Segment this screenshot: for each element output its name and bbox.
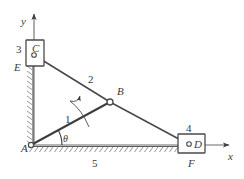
label-link-1-number: 1 — [65, 113, 71, 125]
angle-theta-arc — [58, 130, 62, 145]
label-guide-f: F — [187, 157, 195, 169]
x-axis-label: x — [227, 150, 233, 162]
label-link-2-number: 2 — [88, 73, 94, 85]
mechanism-diagram: y x — [0, 0, 244, 179]
angle-theta-label: θ — [63, 133, 68, 144]
label-point-c: C — [32, 42, 40, 54]
joint-a-pin — [28, 142, 33, 147]
label-link-5-number: 5 — [92, 157, 98, 169]
link-1-crank-bar — [31, 102, 110, 145]
label-guide-e: E — [13, 61, 21, 73]
ground-hatching-vertical — [27, 66, 33, 145]
joint-b-pin — [107, 99, 113, 105]
link-2-bar — [34, 55, 110, 102]
ground-hatching-horizontal — [30, 147, 179, 152]
label-point-a: A — [20, 142, 28, 154]
label-point-d: D — [193, 138, 202, 150]
label-point-b: B — [117, 85, 124, 97]
ground-frame-vertical — [27, 66, 33, 145]
joint-d-pin — [187, 142, 192, 147]
mechanism-svg: y x — [0, 0, 244, 179]
crank-rotation-arrow-head — [70, 96, 80, 101]
label-link-3-number: 3 — [16, 43, 22, 55]
label-link-4-number: 4 — [186, 122, 192, 134]
ground-frame-horizontal — [30, 147, 181, 153]
y-axis-label: y — [20, 15, 26, 27]
